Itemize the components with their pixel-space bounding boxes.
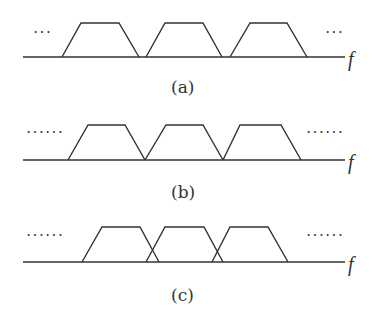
axis-label-f: f: [348, 253, 354, 276]
spectrum-trapezoid: [145, 125, 223, 160]
ellipsis-right: ···: [325, 24, 344, 42]
panel-caption: (a): [171, 77, 194, 97]
diagram-canvas: [0, 0, 383, 318]
spectrum-trapezoid: [146, 23, 222, 57]
ellipsis-right: ······: [306, 227, 344, 245]
ellipsis-right: ······: [306, 124, 344, 142]
panel-b: [23, 125, 345, 160]
spectrum-diagram: ······f(a)············f(b)············f(…: [0, 0, 383, 318]
spectrum-trapezoid: [223, 125, 301, 160]
ellipsis-left: ···: [33, 24, 52, 42]
spectrum-trapezoid: [68, 125, 145, 160]
axis-label-f: f: [348, 48, 354, 71]
spectrum-trapezoid: [146, 227, 223, 262]
panel-a: [23, 23, 345, 57]
spectrum-trapezoid: [230, 23, 307, 57]
panel-caption: (b): [171, 182, 195, 202]
axis-label-f: f: [348, 151, 354, 174]
spectrum-trapezoid: [62, 23, 139, 57]
panel-caption: (c): [171, 285, 194, 305]
ellipsis-left: ······: [26, 124, 64, 142]
spectrum-trapezoid: [212, 227, 288, 262]
panel-c: [23, 227, 345, 262]
spectrum-trapezoid: [82, 227, 159, 262]
ellipsis-left: ······: [26, 227, 64, 245]
